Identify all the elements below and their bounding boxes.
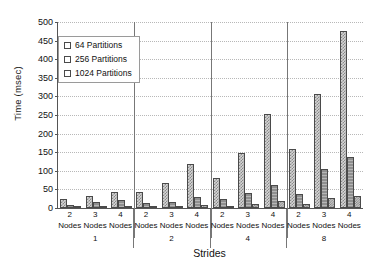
node-bar-group	[261, 22, 286, 208]
node-bar-group	[338, 22, 363, 208]
bar	[125, 206, 132, 208]
node-bar-group	[312, 22, 337, 208]
bar	[60, 199, 67, 208]
group-separator	[210, 232, 211, 248]
node-bar-group	[160, 22, 185, 208]
node-label-group: 2Nodes3Nodes4Nodes	[133, 209, 209, 233]
legend-item-256-partitions: 256 Partitions	[64, 55, 132, 64]
bar	[314, 94, 321, 208]
x-axis-node-label: 3Nodes	[311, 209, 336, 233]
x-axis-node-label: 4Nodes	[184, 209, 209, 233]
bar	[252, 204, 259, 208]
node-label-group: 2Nodes3Nodes4Nodes	[210, 209, 286, 233]
bar	[169, 202, 176, 208]
stride-group	[211, 22, 287, 208]
bar	[296, 194, 303, 208]
legend-swatch-icon	[64, 70, 71, 77]
x-axis-title: Strides	[57, 247, 362, 259]
bar	[220, 199, 227, 208]
x-axis-stride-label: 8	[286, 234, 362, 248]
bar	[86, 196, 93, 208]
x-axis-node-label: 2Nodes	[210, 209, 235, 233]
node-label-group: 2Nodes3Nodes4Nodes	[286, 209, 362, 233]
x-axis-node-label: 3Nodes	[82, 209, 107, 233]
x-stride-labels: 1248	[57, 234, 362, 248]
group-separator	[286, 209, 287, 233]
x-axis-stride-label: 1	[57, 234, 133, 248]
bar	[100, 206, 107, 208]
x-node-labels: 2Nodes3Nodes4Nodes2Nodes3Nodes4Nodes2Nod…	[57, 209, 362, 233]
bar	[354, 196, 361, 208]
bar	[93, 202, 100, 208]
stride-group	[134, 22, 210, 208]
bar	[245, 193, 252, 208]
bar	[289, 149, 296, 208]
x-axis-node-label: 4Nodes	[337, 209, 362, 233]
legend-swatch-icon	[64, 56, 71, 63]
x-axis-stride-label: 2	[133, 234, 209, 248]
node-bar-group	[211, 22, 236, 208]
bar	[238, 153, 245, 208]
bar	[118, 200, 125, 208]
bar	[187, 164, 194, 208]
node-label-group: 2Nodes3Nodes4Nodes	[57, 209, 133, 233]
group-separator	[133, 232, 134, 248]
bar	[194, 197, 201, 208]
group-separator	[210, 209, 211, 233]
bar	[162, 183, 169, 208]
bar	[201, 205, 208, 208]
bar	[303, 204, 310, 208]
node-bar-group	[185, 22, 210, 208]
bar	[347, 157, 354, 208]
x-axis-stride-label: 4	[210, 234, 286, 248]
x-axis-node-label: 4Nodes	[108, 209, 133, 233]
y-axis-title: Time (msec)	[12, 49, 23, 139]
group-separator	[133, 209, 134, 233]
bar	[176, 206, 183, 208]
legend-label: 256 Partitions	[75, 55, 127, 64]
stride-group	[287, 22, 363, 208]
node-bar-group	[287, 22, 312, 208]
bar	[321, 169, 328, 208]
node-bar-group	[236, 22, 261, 208]
x-axis-node-label: 2Nodes	[133, 209, 158, 233]
x-axis-node-label: 2Nodes	[286, 209, 311, 233]
x-axis-node-label: 4Nodes	[260, 209, 285, 233]
x-axis-node-label: 2Nodes	[57, 209, 82, 233]
legend-label: 64 Partitions	[75, 41, 122, 50]
x-axis-node-label: 3Nodes	[235, 209, 260, 233]
bar	[111, 192, 118, 208]
bar	[67, 205, 74, 208]
legend-item-64-partitions: 64 Partitions	[64, 41, 132, 50]
bar	[264, 114, 271, 208]
x-axis-node-label: 3Nodes	[159, 209, 184, 233]
bar	[213, 178, 220, 208]
bar	[150, 206, 157, 208]
bar-chart: Time (msec) 0501001502002503003504004505…	[0, 0, 383, 271]
chart-legend: 64 Partitions 256 Partitions 1024 Partit…	[58, 36, 140, 83]
group-separator	[286, 232, 287, 248]
bar	[278, 201, 285, 208]
bar	[74, 206, 81, 208]
bar	[328, 198, 335, 208]
legend-item-1024-partitions: 1024 Partitions	[64, 69, 132, 78]
bar	[143, 203, 150, 208]
bar	[271, 185, 278, 208]
bar	[227, 206, 234, 208]
bar	[340, 31, 347, 208]
bar	[136, 192, 143, 208]
legend-swatch-icon	[64, 42, 71, 49]
legend-label: 1024 Partitions	[75, 69, 132, 78]
